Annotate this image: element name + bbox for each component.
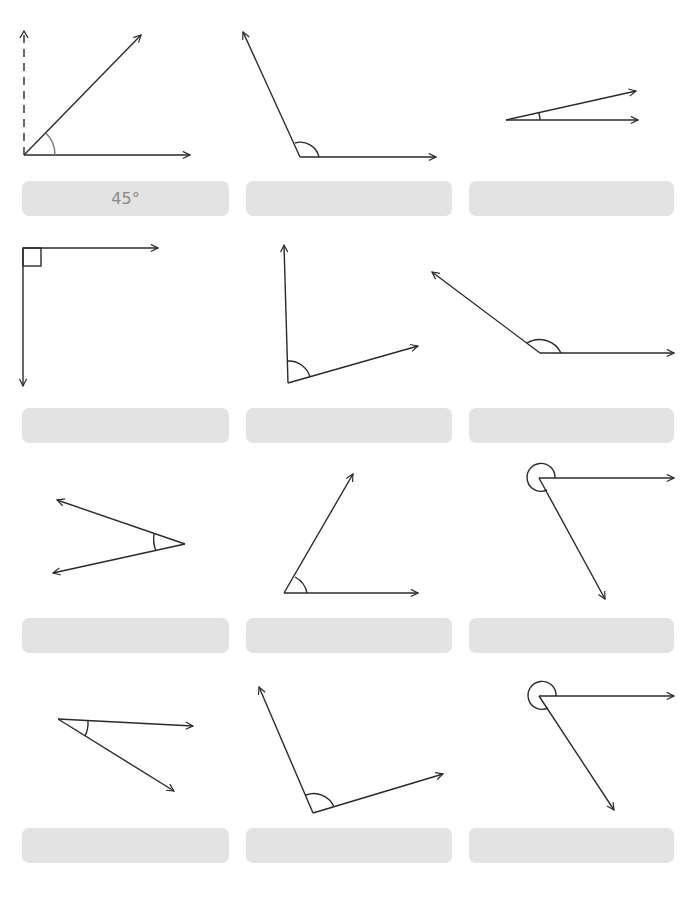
angle-4	[23, 248, 158, 386]
angle-arc	[295, 577, 307, 593]
answer-box-1[interactable]: 45°	[22, 181, 229, 216]
angle-7	[53, 500, 185, 573]
angle-6	[432, 272, 674, 353]
angle-arc	[85, 721, 88, 736]
answer-box-5[interactable]	[246, 408, 452, 443]
angle-3	[506, 91, 638, 120]
angle-9	[527, 463, 674, 599]
answer-box-11[interactable]	[246, 828, 452, 863]
answer-box-6[interactable]	[469, 408, 674, 443]
answer-box-12[interactable]	[469, 828, 674, 863]
answer-box-8[interactable]	[246, 618, 452, 653]
answer-box-2[interactable]	[246, 181, 452, 216]
angle-arc	[46, 133, 55, 155]
angle-5	[284, 245, 418, 383]
answer-box-10[interactable]	[22, 828, 229, 863]
angle-10	[58, 719, 193, 791]
angle-8	[284, 474, 418, 593]
angle-diagrams	[0, 0, 695, 899]
right-angle-marker	[23, 248, 41, 266]
angle-12	[528, 681, 674, 810]
angle-11	[259, 687, 443, 813]
answer-box-7[interactable]	[22, 618, 229, 653]
angle-2	[243, 32, 436, 157]
angle-arc	[288, 361, 310, 377]
angle-1	[20, 31, 190, 155]
angle-arc	[154, 534, 156, 551]
answer-box-3[interactable]	[469, 181, 674, 216]
answer-box-9[interactable]	[469, 618, 674, 653]
angle-arc	[539, 113, 540, 120]
answer-box-4[interactable]	[22, 408, 229, 443]
